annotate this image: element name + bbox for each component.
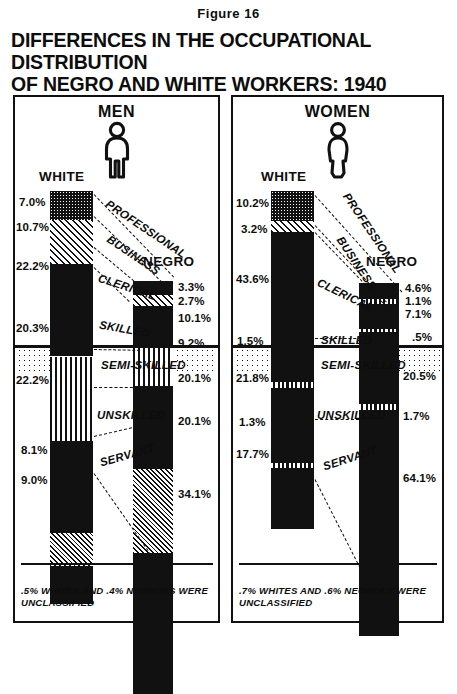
men-negro-seg-servant <box>133 553 173 694</box>
title-line-2: OF NEGRO AND WHITE WORKERS: 1940 <box>11 74 448 96</box>
men-negro-seg-unskilled <box>133 469 173 552</box>
men-occ-semiskilled: SEMI-SKILLED <box>101 359 186 371</box>
women-white-pct-professional: 10.2% <box>236 197 269 209</box>
panel-women: WOMEN WHITE NEGRO 10.2% 3.2% 43.6% 1.5% … <box>231 95 444 623</box>
women-negro-pct-unskilled: 1.7% <box>403 410 430 422</box>
men-white-bar <box>50 191 93 603</box>
men-leader-skilled <box>94 349 140 351</box>
men-white-pct-clerical: 22.2% <box>16 260 49 272</box>
men-negro-pct-semiskilled: 20.1% <box>178 372 211 384</box>
men-white-pct-semiskilled: 22.2% <box>16 374 49 386</box>
women-white-seg-professional <box>271 191 314 221</box>
women-negro-pct-professional: 4.6% <box>405 282 432 294</box>
men-occ-semiskilled-text: SEMI-SKILLED <box>101 359 186 371</box>
women-white-seg-servant <box>271 468 314 529</box>
women-negro-pct-clerical: 7.1% <box>405 308 432 320</box>
women-negro-pct-skilled: .5% <box>412 331 432 343</box>
panel-men-heading: MEN <box>15 103 218 121</box>
women-occ-skilled: SKILLED <box>321 334 372 346</box>
women-white-pct-servant: 17.7% <box>236 448 269 460</box>
men-negro-pct-skilled: 9.2% <box>178 337 205 349</box>
men-white-pct-servant: 9.0% <box>21 474 48 486</box>
women-negro-pct-semiskilled: 20.5% <box>403 370 436 382</box>
men-white-seg-clerical <box>50 264 93 356</box>
men-negro-pct-clerical: 10.1% <box>178 312 211 324</box>
men-white-seg-semiskilled <box>50 441 93 533</box>
men-negro-pct-professional: 3.3% <box>178 281 205 293</box>
women-white-label: WHITE <box>261 169 307 184</box>
male-figure-icon <box>99 121 135 183</box>
men-white-pct-skilled: 20.3% <box>16 322 49 334</box>
men-white-pct-unskilled: 8.1% <box>21 444 48 456</box>
page-title: DIFFERENCES IN THE OCCUPATIONAL DISTRIBU… <box>11 30 448 95</box>
women-occ-semiskilled-text: SEMI-SKILLED <box>321 359 406 371</box>
women-white-pct-clerical: 43.6% <box>236 273 269 285</box>
women-white-seg-business <box>271 221 314 232</box>
women-stipple-left <box>235 348 273 374</box>
men-white-seg-professional <box>50 191 93 220</box>
men-negro-pct-business: 2.7% <box>178 295 205 307</box>
women-white-pct-unskilled: 1.3% <box>239 416 266 428</box>
men-white-pct-business: 10.7% <box>16 221 49 233</box>
women-white-seg-semiskilled <box>271 388 314 463</box>
women-white-pct-semiskilled: 21.8% <box>236 372 269 384</box>
women-leader-skilled <box>315 338 361 339</box>
women-footnote-rule <box>239 563 437 565</box>
female-figure-icon <box>321 121 355 183</box>
women-leader-unskilled <box>315 419 359 420</box>
men-negro-pct-servant: 34.1% <box>178 488 211 500</box>
figure-number: Figure 16 <box>0 6 457 21</box>
women-negro-pct-servant: 64.1% <box>403 472 436 484</box>
men-white-label: WHITE <box>39 169 85 184</box>
panel-women-heading: WOMEN <box>233 103 442 121</box>
men-footnote: .5% WHITES AND .4% NEGROES WERE UNCLASSI… <box>21 585 213 610</box>
panel-men: MEN WHITE NEGRO 7.0% 10.7% 22.2% 20.3% 2… <box>13 95 220 623</box>
men-white-seg-unskilled <box>50 533 93 567</box>
men-white-seg-business <box>50 220 93 264</box>
women-white-pct-skilled: 1.5% <box>237 335 264 347</box>
men-leader-unskilled <box>94 387 138 388</box>
women-footnote: .7% WHITES AND .6% NEGROES WERE UNCLASSI… <box>239 585 437 610</box>
men-negro-pct-unskilled: 20.1% <box>178 415 211 427</box>
women-occ-semiskilled: SEMI-SKILLED <box>321 359 406 371</box>
men-leader-unskilled2 <box>94 426 137 437</box>
men-occ-unskilled: UNSKILLED <box>97 409 166 421</box>
men-footnote-rule <box>21 563 213 565</box>
title-line-1: DIFFERENCES IN THE OCCUPATIONAL DISTRIBU… <box>11 29 371 73</box>
men-negro-bar <box>133 281 173 693</box>
women-white-pct-business: 3.2% <box>241 223 268 235</box>
women-negro-pct-business: 1.1% <box>405 295 432 307</box>
men-white-seg-skilled <box>50 357 93 441</box>
women-white-bar <box>271 191 314 589</box>
women-white-seg-clerical <box>271 232 314 382</box>
men-white-pct-professional: 7.0% <box>19 196 46 208</box>
